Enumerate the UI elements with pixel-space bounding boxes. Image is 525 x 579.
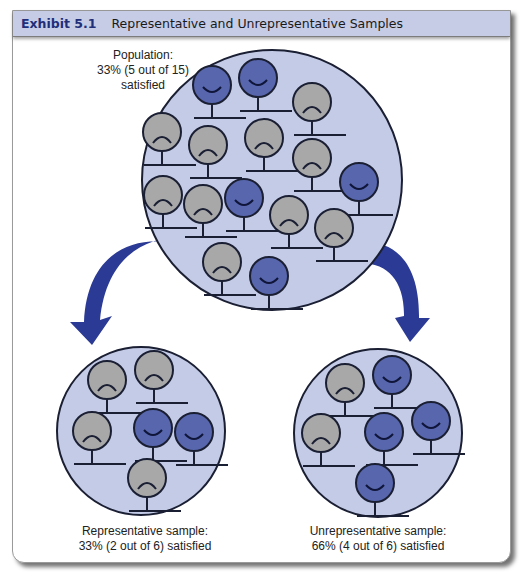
population-label-line3: satisfied — [68, 78, 218, 93]
unrepresentative-label-line2: 66% (4 out of 6) satisfied — [293, 539, 463, 554]
unrepresentative-label-line1: Unrepresentative sample: — [293, 524, 463, 539]
unrepresentative-sample-label: Unrepresentative sample: 66% (4 out of 6… — [293, 524, 463, 554]
representative-sample-circle — [57, 347, 228, 515]
representative-label-line2: 33% (2 out of 6) satisfied — [60, 539, 230, 554]
representative-sample-label: Representative sample: 33% (2 out of 6) … — [60, 524, 230, 554]
unrepresentative-sample-circle — [294, 349, 465, 517]
representative-label-line1: Representative sample: — [60, 524, 230, 539]
population-label-line1: Population: — [68, 48, 218, 63]
population-label-line2: 33% (5 out of 15) — [68, 63, 218, 78]
population-label: Population: 33% (5 out of 15) satisfied — [68, 48, 218, 93]
